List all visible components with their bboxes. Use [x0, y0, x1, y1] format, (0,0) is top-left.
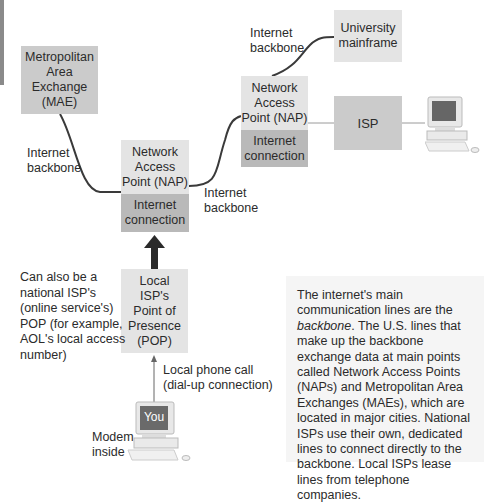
backbone-label-left: Internet backbone — [27, 146, 81, 176]
note-text-1: The internet's main communication lines … — [297, 288, 453, 317]
university-mainframe-box: University mainframe — [334, 10, 402, 62]
isp-box: ISP — [334, 96, 402, 150]
pop-box: Local ISP's Point of Presence (POP) — [121, 269, 188, 353]
nap-right-box: Network Access Point (NAP) — [241, 76, 308, 130]
nap-center-internet-connection: Internet connection — [121, 194, 189, 232]
nap-right-internet-connection: Internet connection — [241, 130, 308, 167]
phone-call-label: Local phone call (dial-up connection) — [163, 363, 273, 393]
nap-center-box: Network Access Point (NAP) — [121, 140, 189, 194]
mae-box: Metropolitan Area Exchange (MAE) — [21, 46, 98, 114]
backbone-label-top: Internet backbone — [250, 26, 304, 56]
backbone-label-center: Internet backbone — [204, 186, 258, 216]
computer-icon-you: You — [124, 400, 196, 464]
computer-icon-right — [425, 95, 485, 155]
you-label: You — [142, 410, 166, 424]
pop-note-label: Can also be a national ISP's (online ser… — [20, 270, 125, 363]
note-emphasis-backbone: backbone — [297, 319, 351, 333]
backbone-explanation-note: The internet's main communication lines … — [286, 276, 484, 462]
